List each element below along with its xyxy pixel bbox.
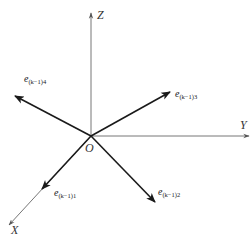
vector-subscript: (k−1)4 xyxy=(28,78,46,86)
label-e-k-1-1: e(k−1)1 xyxy=(54,187,76,200)
x-axis-label: X xyxy=(10,223,19,237)
vector-e-k-1-2 xyxy=(91,136,155,202)
label-e-k-1-3: e(k−1)3 xyxy=(175,88,197,101)
vector-subscript: (k−1)3 xyxy=(179,93,197,101)
vector-e-k-1-3 xyxy=(91,92,170,136)
label-e-k-1-4: e(k−1)4 xyxy=(24,73,47,86)
coordinate-diagram: Z Y X O e(k−1)4 e(k−1)3 e(k−1)1 e(k−1)2 xyxy=(0,0,252,239)
vector-subscript: (k−1)2 xyxy=(162,191,180,199)
vector-e-k-1-4 xyxy=(15,96,91,136)
y-axis-label: Y xyxy=(240,118,248,132)
vector-e-k-1-1 xyxy=(42,136,91,189)
label-e-k-1-2: e(k−1)2 xyxy=(158,186,180,199)
vector-subscript: (k−1)1 xyxy=(58,192,76,200)
origin-label: O xyxy=(85,141,94,155)
z-axis-label: Z xyxy=(97,8,104,22)
